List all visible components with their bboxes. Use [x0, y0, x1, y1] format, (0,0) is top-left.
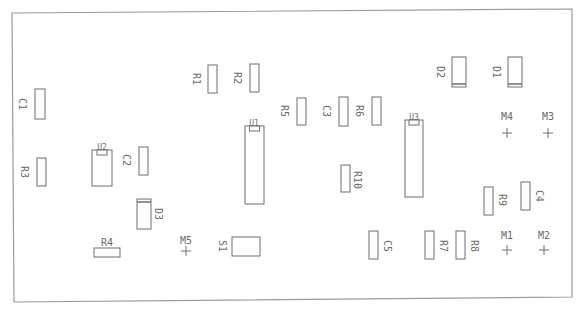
- mounting-hole-label: M5: [180, 235, 192, 246]
- pcb-layout: C1R3U2C2D3R4R1R2U1R5C3R6R10S1U3D2D1R9C4C…: [0, 0, 582, 313]
- diode-body: [137, 199, 151, 229]
- switch-body: [232, 237, 260, 256]
- component-r3: R3: [19, 158, 46, 186]
- component-r1: R1: [191, 65, 217, 93]
- resistor-body: [94, 248, 120, 257]
- ic-body: [405, 120, 423, 197]
- resistor-body: [37, 158, 46, 186]
- reference-designator-label: R8: [469, 240, 480, 252]
- resistor-body: [341, 165, 350, 192]
- resistor-body: [456, 231, 465, 259]
- component-r5: R5: [279, 98, 306, 125]
- resistor-body: [208, 65, 217, 93]
- mounting-holes-layer: M4M3M1M2M5: [180, 111, 554, 256]
- reference-designator-label: C5: [382, 240, 393, 252]
- reference-designator-label: C1: [17, 98, 28, 110]
- reference-designator-label: R7: [438, 240, 449, 252]
- component-r9: R9: [484, 187, 508, 215]
- reference-designator-label: D1: [491, 66, 502, 78]
- component-d1: D1: [491, 57, 522, 87]
- reference-designator-label: R5: [279, 105, 290, 117]
- capacitor-body: [339, 97, 348, 126]
- component-c5: C5: [369, 231, 393, 259]
- components-layer: C1R3U2C2D3R4R1R2U1R5C3R6R10S1U3D2D1R9C4C…: [17, 57, 545, 259]
- reference-designator-label: R10: [352, 171, 363, 189]
- resistor-body: [372, 97, 381, 125]
- reference-designator-label: C3: [321, 105, 332, 117]
- ic-body: [245, 126, 264, 204]
- mounting-hole-m4: M4: [501, 111, 513, 138]
- mounting-hole-label: M3: [542, 111, 554, 122]
- component-u3: U3: [405, 113, 423, 198]
- diode-body: [452, 57, 466, 87]
- mounting-hole-m1: M1: [501, 230, 513, 255]
- diode-body: [508, 57, 522, 87]
- component-r6: R6: [354, 97, 381, 125]
- component-d3: D3: [137, 199, 164, 229]
- resistor-body: [425, 231, 434, 259]
- component-c2: C2: [121, 147, 148, 175]
- reference-designator-label: R6: [354, 105, 365, 117]
- mounting-hole-m2: M2: [538, 230, 550, 255]
- mounting-hole-label: M1: [501, 230, 513, 241]
- component-d2: D2: [435, 57, 466, 87]
- component-r4: R4: [94, 237, 120, 257]
- component-r2: R2: [232, 64, 259, 92]
- component-r7: R7: [425, 231, 449, 259]
- reference-designator-label: D3: [153, 208, 164, 220]
- reference-designator-label: R3: [19, 166, 30, 178]
- component-r8: R8: [456, 231, 480, 259]
- capacitor-body: [521, 182, 530, 210]
- capacitor-body: [35, 89, 45, 119]
- mounting-hole-m5: M5: [180, 235, 192, 256]
- resistor-body: [484, 187, 493, 215]
- reference-designator-label: U1: [249, 119, 259, 128]
- reference-designator-label: U3: [409, 113, 419, 122]
- mounting-hole-label: M4: [501, 111, 513, 122]
- reference-designator-label: R9: [497, 194, 508, 206]
- component-r10: R10: [341, 165, 363, 192]
- component-c3: C3: [321, 97, 348, 126]
- component-s1: S1: [217, 237, 260, 256]
- reference-designator-label: U2: [97, 143, 107, 152]
- resistor-body: [250, 64, 259, 92]
- reference-designator-label: R4: [101, 237, 113, 248]
- mounting-hole-label: M2: [538, 230, 550, 241]
- component-c1: C1: [17, 89, 45, 119]
- component-u1: U1: [245, 119, 264, 205]
- reference-designator-label: R2: [232, 72, 243, 84]
- component-c4: C4: [521, 182, 545, 210]
- reference-designator-label: C2: [121, 154, 132, 166]
- reference-designator-label: C4: [534, 190, 545, 202]
- capacitor-body: [139, 147, 148, 175]
- reference-designator-label: R1: [191, 73, 202, 85]
- mounting-hole-m3: M3: [542, 111, 554, 138]
- capacitor-body: [369, 231, 378, 259]
- reference-designator-label: S1: [217, 240, 228, 252]
- component-u2: U2: [92, 143, 112, 187]
- reference-designator-label: D2: [435, 66, 446, 78]
- resistor-body: [297, 98, 306, 125]
